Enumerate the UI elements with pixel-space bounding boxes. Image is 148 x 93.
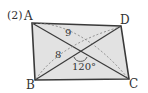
vertex-c: C xyxy=(129,78,138,90)
vertex-b: B xyxy=(26,79,35,91)
angle-120: 120° xyxy=(72,62,96,72)
problem-label: (2) xyxy=(7,10,23,21)
vertex-a: A xyxy=(24,10,33,22)
vertex-d: D xyxy=(120,14,130,26)
length-8: 8 xyxy=(55,50,61,60)
length-9: 9 xyxy=(65,28,71,38)
